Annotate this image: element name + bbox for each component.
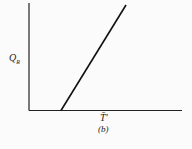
y-axis-label: QR — [9, 52, 20, 65]
chart-plot — [0, 0, 192, 149]
y-label-sub: R — [16, 59, 20, 65]
x-axis-label: T̄′ — [100, 112, 108, 123]
data-line — [61, 5, 126, 111]
figure-caption: (b) — [98, 124, 109, 134]
